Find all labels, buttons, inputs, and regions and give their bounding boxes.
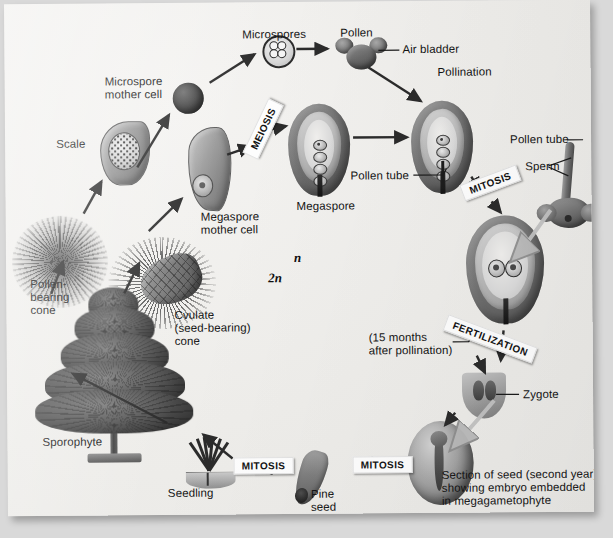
scanned-page: Microspores Pollen Air bladder Pollinati… — [4, 0, 594, 516]
stage-tag-mitosis-seedling[interactable]: MITOSIS — [234, 457, 294, 474]
stage-tag-meiosis[interactable]: MEIOSIS — [243, 98, 284, 160]
stage-tag-fertilization[interactable]: FERTILIZATION — [443, 314, 538, 363]
stage-tag-mitosis-pollen[interactable]: MITOSIS — [459, 165, 521, 202]
stage-tags-layer: MEIOSIS MITOSIS FERTILIZATION MITOSIS MI… — [4, 0, 594, 516]
screenshot-canvas: Microspores Pollen Air bladder Pollinati… — [0, 0, 613, 538]
stage-tag-mitosis-seed[interactable]: MITOSIS — [353, 456, 413, 473]
